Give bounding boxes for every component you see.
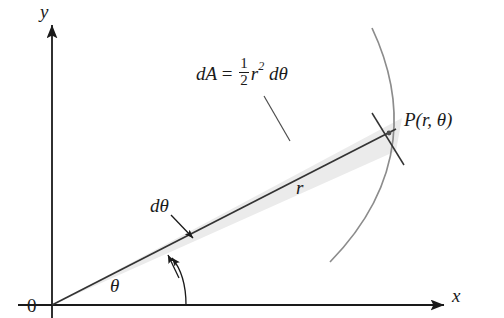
area-formula-fraction: 1 2 (239, 56, 249, 89)
figure-canvas: y x 0 r dθ θ P(r, θ) dA = 1 2 r2 dθ (0, 0, 504, 318)
area-formula-lhs: dA (196, 63, 217, 84)
theta-angle-arc (172, 258, 186, 305)
area-formula-equals: = (222, 63, 233, 84)
d-theta-label: dθ (150, 196, 169, 215)
area-formula-exponent: 2 (258, 59, 264, 73)
fraction-numerator: 1 (239, 56, 249, 72)
origin-label: 0 (27, 296, 37, 315)
point-p-marker (387, 131, 392, 136)
radius-label: r (296, 178, 303, 197)
radius-line (52, 129, 396, 305)
area-formula: dA = 1 2 r2 dθ (196, 57, 288, 90)
point-p-label: P(r, θ) (404, 110, 452, 129)
d-theta-leader-arrow (171, 215, 193, 238)
y-axis-label: y (40, 2, 48, 21)
theta-label: θ (110, 276, 119, 295)
area-formula-differential: dθ (269, 63, 288, 84)
area-label-leader-line (264, 96, 290, 141)
x-axis-label: x (452, 286, 460, 305)
fraction-denominator: 2 (239, 72, 249, 89)
polar-area-diagram (0, 0, 504, 318)
wedge-shaded-area (52, 118, 402, 305)
